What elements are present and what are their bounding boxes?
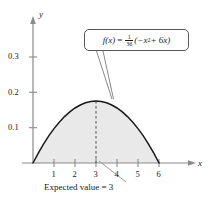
x-tick-label-1: 1 — [52, 170, 56, 179]
x-tick-label-5: 5 — [136, 170, 140, 179]
formula-arg: (x) — [105, 36, 115, 45]
function-formula: f(x)=136(−x2 + 6x) — [103, 34, 171, 47]
y-tick-label-0.2: 0.2 — [8, 88, 19, 97]
y-axis-label: y — [39, 10, 43, 19]
figure-container: 0.3 0.2 0.1 1 2 3 4 5 6 y x f(x)=136(−x2… — [0, 0, 208, 201]
y-tick-label-0.3: 0.3 — [8, 52, 19, 61]
formula-body-tail: + 6x) — [150, 36, 170, 45]
expected-value-caption: Expected value = 3 — [44, 183, 113, 192]
caption-leader-line — [99, 161, 126, 182]
x-axis-arrowhead — [188, 160, 196, 166]
formula-fraction: 136 — [125, 34, 133, 47]
y-axis-arrowhead — [30, 16, 36, 24]
formula-equals: = — [117, 36, 122, 45]
function-callout-box: f(x)=136(−x2 + 6x) — [84, 29, 189, 51]
formula-denominator: 36 — [125, 41, 133, 47]
x-tick-label-2: 2 — [73, 170, 77, 179]
x-tick-label-4: 4 — [115, 170, 119, 179]
x-axis-label: x — [198, 159, 202, 168]
y-tick-label-0.1: 0.1 — [8, 123, 19, 132]
x-tick-label-3: 3 — [94, 170, 98, 179]
formula-body: (−x — [134, 36, 147, 45]
x-tick-label-6: 6 — [157, 170, 161, 179]
